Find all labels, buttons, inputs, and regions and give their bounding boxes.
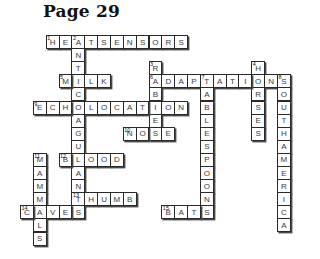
crossword-cell[interactable]: A (33, 205, 47, 219)
crossword-cell[interactable]: S (200, 140, 214, 154)
crossword-cell[interactable]: G (71, 127, 85, 141)
crossword-cell[interactable]: N (123, 35, 137, 49)
crossword-cell[interactable]: C (277, 205, 291, 219)
crossword-cell[interactable]: H (84, 192, 98, 206)
crossword-cell[interactable]: S (174, 35, 188, 49)
crossword-cell[interactable]: M (277, 153, 291, 167)
crossword-cell[interactable]: T (84, 35, 98, 49)
crossword-cell[interactable]: O (149, 35, 163, 49)
crossword-cell[interactable]: A (33, 166, 47, 180)
crossword-cell[interactable]: H4 (251, 61, 265, 75)
crossword-cell[interactable]: N (71, 48, 85, 62)
crossword-cell[interactable]: D (161, 74, 175, 88)
crossword-cell[interactable]: I (149, 101, 163, 115)
crossword-cell[interactable]: I (277, 192, 291, 206)
crossword-cell[interactable]: H1 (46, 35, 60, 49)
crossword-cell[interactable]: A (71, 114, 85, 128)
crossword-cell[interactable]: E (110, 35, 124, 49)
crossword-cell[interactable]: S8 (277, 74, 291, 88)
crossword-cell[interactable]: O (71, 101, 85, 115)
crossword-cell[interactable]: I (238, 74, 252, 88)
crossword-cell[interactable]: E (149, 114, 163, 128)
crossword-cell[interactable]: L (33, 218, 47, 232)
crossword-cell[interactable]: B (200, 101, 214, 115)
crossword-cell[interactable]: T13 (71, 192, 85, 206)
crossword-cell[interactable]: A (174, 205, 188, 219)
crossword-cell[interactable]: A (200, 87, 214, 101)
crossword-cell[interactable]: M5 (59, 74, 73, 88)
crossword-cell[interactable]: K (97, 74, 111, 88)
crossword-cell[interactable]: A (174, 74, 188, 88)
crossword-cell[interactable]: B (123, 192, 137, 206)
crossword-cell[interactable]: C (71, 87, 85, 101)
crossword-cell[interactable]: H (277, 127, 291, 141)
crossword-cell[interactable]: T7 (200, 74, 214, 88)
crossword-cell[interactable]: B12 (59, 153, 73, 167)
crossword-cell[interactable]: S (149, 127, 163, 141)
crossword-cell[interactable]: R (277, 179, 291, 193)
crossword-cell[interactable]: N (200, 192, 214, 206)
crossword-cell[interactable]: M (33, 179, 47, 193)
crossword-cell[interactable]: E (59, 35, 73, 49)
crossword-cell[interactable]: S (136, 35, 150, 49)
crossword-cell[interactable]: S (97, 35, 111, 49)
crossword-cell[interactable]: E9 (33, 101, 47, 115)
crossword-cell[interactable]: S (251, 101, 265, 115)
crossword-cell[interactable]: O (84, 153, 98, 167)
crossword-cell[interactable]: C (46, 101, 60, 115)
crossword-cell[interactable]: T (277, 114, 291, 128)
crossword-cell[interactable]: A (71, 166, 85, 180)
crossword-cell[interactable]: S (251, 127, 265, 141)
crossword-cell[interactable]: E (59, 205, 73, 219)
crossword-cell[interactable]: O (97, 101, 111, 115)
crossword-cell[interactable]: S (200, 205, 214, 219)
crossword-cell[interactable]: R (161, 35, 175, 49)
crossword-cell[interactable]: R3 (149, 61, 163, 75)
crossword-cell[interactable]: U (71, 140, 85, 154)
crossword-cell[interactable]: L (71, 153, 85, 167)
crossword-cell[interactable]: O (251, 74, 265, 88)
crossword-cell[interactable]: V (46, 205, 60, 219)
crossword-cell[interactable]: A2 (71, 35, 85, 49)
crossword-cell[interactable]: D (110, 153, 124, 167)
crossword-cell[interactable]: N (174, 101, 188, 115)
crossword-cell[interactable]: I (71, 74, 85, 88)
crossword-cell[interactable]: O (200, 179, 214, 193)
crossword-cell[interactable]: T (187, 205, 201, 219)
crossword-cell[interactable]: A (123, 101, 137, 115)
crossword-cell[interactable]: O (97, 153, 111, 167)
crossword-cell[interactable]: U (277, 101, 291, 115)
crossword-cell[interactable]: T (136, 101, 150, 115)
crossword-cell[interactable]: H (59, 101, 73, 115)
crossword-cell[interactable]: M (110, 192, 124, 206)
crossword-cell[interactable]: N10 (123, 127, 137, 141)
crossword-cell[interactable]: L (84, 101, 98, 115)
crossword-cell[interactable]: L (200, 114, 214, 128)
crossword-cell[interactable]: A6 (149, 74, 163, 88)
crossword-cell[interactable]: O (200, 166, 214, 180)
crossword-cell[interactable]: A (213, 74, 227, 88)
crossword-cell[interactable]: O (277, 87, 291, 101)
crossword-cell[interactable]: E (277, 166, 291, 180)
crossword-cell[interactable]: M11 (33, 153, 47, 167)
crossword-cell[interactable]: S (71, 205, 85, 219)
crossword-cell[interactable]: R (251, 87, 265, 101)
crossword-cell[interactable]: A (277, 140, 291, 154)
crossword-cell[interactable]: T (71, 61, 85, 75)
crossword-cell[interactable]: L (84, 74, 98, 88)
crossword-cell[interactable]: C14 (20, 205, 34, 219)
crossword-cell[interactable]: M (33, 192, 47, 206)
crossword-cell[interactable]: C (110, 101, 124, 115)
crossword-cell[interactable]: T (226, 74, 240, 88)
crossword-cell[interactable]: B15 (161, 205, 175, 219)
crossword-cell[interactable]: B (149, 87, 163, 101)
crossword-cell[interactable]: E (251, 114, 265, 128)
crossword-cell[interactable]: N (264, 74, 278, 88)
crossword-cell[interactable]: O (161, 101, 175, 115)
crossword-cell[interactable]: E (161, 127, 175, 141)
crossword-cell[interactable]: A (277, 218, 291, 232)
crossword-cell[interactable]: U (97, 192, 111, 206)
crossword-cell[interactable]: P (200, 153, 214, 167)
crossword-cell[interactable]: P (187, 74, 201, 88)
crossword-cell[interactable]: E (200, 127, 214, 141)
